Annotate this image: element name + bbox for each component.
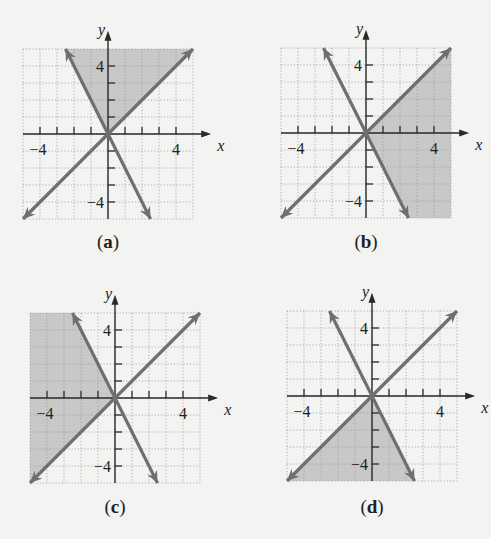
y-tick-label-4: 4 bbox=[360, 320, 368, 337]
x-axis-label: x bbox=[216, 137, 224, 154]
x-tick-label-neg4: −4 bbox=[29, 141, 46, 158]
y-axis-label: y bbox=[354, 23, 364, 38]
x-axis-label: x bbox=[474, 136, 482, 153]
y-tick-label-neg4: −4 bbox=[345, 193, 362, 210]
x-axis-arrow-icon bbox=[459, 130, 469, 137]
graph-caption-a: (a) bbox=[78, 231, 138, 253]
x-tick-label-neg4: −4 bbox=[36, 405, 53, 422]
graph-panel-c: −444−4xy bbox=[15, 288, 245, 518]
y-tick-label-4: 4 bbox=[354, 57, 362, 74]
y-tick-label-4: 4 bbox=[103, 322, 111, 339]
graph-panel-b: −444−4xy bbox=[266, 23, 491, 253]
x-tick-label-4: 4 bbox=[172, 141, 180, 158]
y-axis-arrow-icon bbox=[105, 31, 112, 41]
x-axis-arrow-icon bbox=[201, 131, 211, 138]
x-axis-label: x bbox=[480, 399, 488, 416]
y-tick-label-4: 4 bbox=[96, 58, 104, 75]
y-axis-label: y bbox=[103, 288, 113, 303]
y-axis-arrow-icon bbox=[369, 293, 376, 303]
x-tick-label-neg4: −4 bbox=[287, 140, 304, 157]
x-tick-label-4: 4 bbox=[179, 405, 187, 422]
y-axis-label: y bbox=[360, 286, 370, 301]
x-axis-arrow-icon bbox=[465, 393, 475, 400]
graph-caption-c: (c) bbox=[85, 496, 145, 518]
y-axis-arrow-icon bbox=[363, 30, 370, 40]
x-tick-label-4: 4 bbox=[436, 403, 444, 420]
graph-caption-d: (d) bbox=[342, 496, 402, 518]
x-axis-arrow-icon bbox=[208, 395, 218, 402]
x-tick-label-neg4: −4 bbox=[293, 403, 310, 420]
y-tick-label-neg4: −4 bbox=[87, 194, 104, 211]
shaded-region bbox=[66, 49, 194, 134]
graph-caption-b: (b) bbox=[336, 231, 396, 253]
x-axis-label: x bbox=[223, 401, 231, 418]
y-axis-arrow-icon bbox=[112, 295, 119, 305]
graph-panel-a: −444−4xy bbox=[8, 24, 238, 254]
x-tick-label-4: 4 bbox=[430, 140, 438, 157]
graph-panel-d: −444−4xy bbox=[272, 286, 491, 516]
y-tick-label-neg4: −4 bbox=[94, 458, 111, 475]
y-tick-label-neg4: −4 bbox=[351, 456, 368, 473]
y-axis-label: y bbox=[96, 24, 106, 39]
